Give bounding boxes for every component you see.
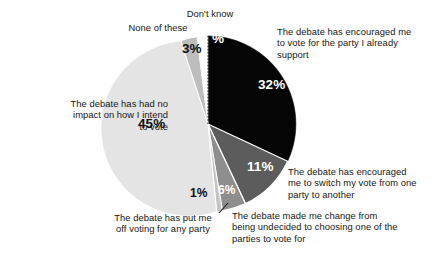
label-undecided: The debate made me change from being und… — [232, 210, 410, 244]
value-label-dont-know: % — [212, 32, 224, 46]
value-label-no-impact: 45% — [138, 117, 165, 131]
label-none-of-these: None of these — [98, 22, 218, 33]
value-label-undecided: 6% — [218, 183, 236, 197]
value-label-already-support: 32% — [258, 78, 285, 92]
value-label-put-off: 1% — [190, 186, 208, 200]
value-label-none-of-these: 3% — [182, 42, 202, 56]
label-dont-know: Don't know — [150, 8, 270, 19]
label-already-support: The debate has encouraged me to vote for… — [277, 26, 445, 60]
value-label-switch-party: 11% — [247, 160, 274, 174]
label-put-off: The debate has put me off voting for any… — [92, 212, 234, 235]
pie-chart-figure: Don't know None of these The debate has … — [0, 0, 448, 254]
label-switch-party: The debate has encouraged me to switch m… — [288, 166, 446, 200]
